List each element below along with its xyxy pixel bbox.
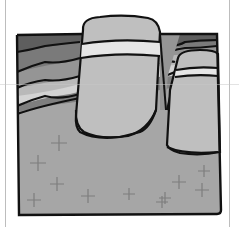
large-intrusion <box>76 16 160 138</box>
geology-diagram <box>0 0 239 227</box>
scan-line <box>0 84 239 85</box>
